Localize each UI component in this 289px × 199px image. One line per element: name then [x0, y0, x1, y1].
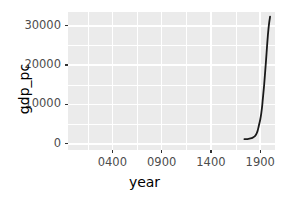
x-tick-label: 0900 [147, 155, 176, 169]
x-tick-label: 0400 [98, 155, 127, 169]
y-tick-mark [65, 25, 68, 26]
x-tick-label: 1900 [246, 155, 275, 169]
y-tick-mark [65, 64, 68, 65]
plot-panel [68, 12, 275, 150]
x-tick-mark [161, 150, 162, 153]
y-tick-label: 30000 [24, 20, 61, 32]
x-tick-mark [112, 150, 113, 153]
x-tick-mark [210, 150, 211, 153]
ggplot-chart: 0100002000030000 gdp_pc 0400090014001900… [0, 0, 289, 199]
x-axis-title: year [0, 174, 289, 190]
y-tick-mark [65, 143, 68, 144]
x-tick-label: 1400 [196, 155, 225, 169]
y-tick-mark [65, 104, 68, 105]
x-tick-mark [260, 150, 261, 153]
data-line-layer [68, 12, 275, 150]
series-line-gdp-pc [244, 17, 270, 139]
y-tick-label: 0 [54, 138, 61, 150]
y-axis-title: gdp_pc [16, 44, 32, 134]
